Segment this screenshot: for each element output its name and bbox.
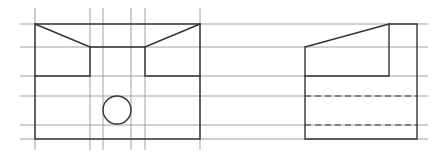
hole-circle — [103, 96, 131, 124]
front-view — [35, 24, 200, 139]
side-step — [305, 24, 389, 76]
side-view — [305, 24, 417, 139]
front-right-step — [145, 47, 200, 76]
front-taper-edges — [35, 24, 200, 47]
front-left-step — [35, 47, 90, 76]
construction-lines — [20, 8, 428, 150]
side-outline — [305, 24, 417, 139]
orthographic-drawing — [0, 0, 445, 156]
front-outline — [35, 24, 200, 139]
